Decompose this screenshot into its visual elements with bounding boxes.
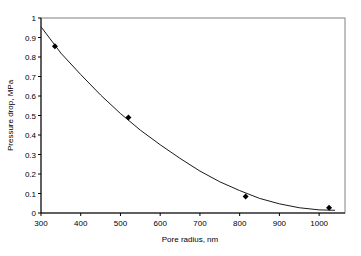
x-axis-title: Pore radius, nm [162, 235, 219, 244]
chart: 00.10.20.30.40.50.60.70.80.9130040050060… [0, 0, 361, 256]
data-point-diamond [125, 114, 131, 120]
plot-frame [41, 18, 345, 213]
fit-curve [41, 27, 335, 210]
y-tick-label: 0.2 [25, 170, 37, 179]
y-tick-label: 1 [32, 14, 37, 23]
x-tick-label: 800 [233, 219, 247, 228]
axes: 00.10.20.30.40.50.60.70.80.9130040050060… [25, 14, 345, 228]
x-tick-label: 300 [34, 219, 48, 228]
y-tick-label: 0 [32, 209, 37, 218]
y-tick-label: 0.8 [25, 53, 37, 62]
x-tick-label: 500 [114, 219, 128, 228]
y-axis-title: Pressure drop, MPa [6, 79, 15, 151]
x-tick-label: 900 [273, 219, 287, 228]
y-tick-label: 0.6 [25, 92, 37, 101]
x-tick-label: 1000 [310, 219, 328, 228]
plot-area [41, 27, 335, 211]
y-tick-label: 0.4 [25, 131, 37, 140]
x-tick-label: 400 [74, 219, 88, 228]
x-tick-label: 600 [154, 219, 168, 228]
y-tick-label: 0.5 [25, 112, 37, 121]
data-point-diamond [243, 193, 249, 199]
y-tick-label: 0.7 [25, 73, 37, 82]
y-tick-label: 0.1 [25, 190, 37, 199]
y-tick-label: 0.9 [25, 34, 37, 43]
x-tick-label: 700 [193, 219, 207, 228]
y-tick-label: 0.3 [25, 151, 37, 160]
